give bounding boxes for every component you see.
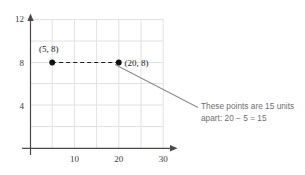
y-tick-label-8: 8 [20,58,25,68]
x-axis-arrowhead-icon [170,145,178,151]
data-point-20-8[interactable] [116,60,122,66]
y-axis-tick-labels: 12 8 4 [15,14,25,111]
annotation-callout: These points are 15 units apart: 20 − 5 … [201,101,294,123]
y-tick-label-12: 12 [15,14,24,24]
data-point-label-left: (5, 8) [39,44,59,54]
annotation-line-1: These points are 15 units [201,101,294,111]
data-point-5-8[interactable] [49,60,55,66]
annotation-leader-line [115,65,198,108]
annotation-line-2: apart: 20 − 5 = 15 [201,113,267,123]
y-tick-label-4: 4 [20,101,25,111]
coordinate-plane-chart: 12 8 4 10 20 30 (5, 8) (20, 8) These poi… [0,0,305,175]
y-axis-arrowhead-icon [27,14,33,22]
data-point-label-right: (20, 8) [125,58,149,68]
grid-lines [30,19,163,148]
x-tick-label-10: 10 [70,154,80,164]
x-tick-label-30: 30 [159,154,169,164]
chart-figure: 12 8 4 10 20 30 (5, 8) (20, 8) These poi… [0,0,305,175]
x-axis-tick-labels: 10 20 30 [70,154,168,164]
x-tick-label-20: 20 [114,154,124,164]
